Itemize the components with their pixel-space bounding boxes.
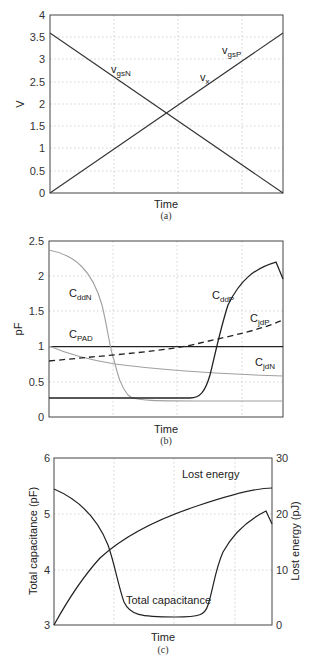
- svg-text:0: 0: [39, 187, 45, 199]
- vgsP-label: vgsP: [222, 44, 241, 59]
- panel-c-caption: (c): [157, 644, 168, 656]
- panel-b: 0 0.5 1 1.5 2 2.5 pF CddN CPAD CddP CjdP…: [12, 235, 283, 447]
- panel-a-grid: [50, 15, 283, 193]
- svg-text:0: 0: [276, 619, 282, 631]
- panel-a-yticks: 0 0.5 1 1.5 2 2.5 3 3.5 4: [30, 9, 45, 199]
- svg-text:1.5: 1.5: [30, 120, 45, 132]
- panel-c: 3 4 5 6 0 10 20 30 Total capacitance (pF…: [27, 452, 301, 656]
- svg-text:2: 2: [39, 98, 45, 110]
- svg-text:4: 4: [39, 9, 45, 21]
- svg-text:2.5: 2.5: [29, 235, 44, 247]
- svg-text:1: 1: [39, 142, 45, 154]
- svg-text:3: 3: [44, 619, 50, 631]
- panel-c-ylabel-right: Lost energy (pJ): [289, 501, 301, 580]
- panel-b-xlabel: Time: [154, 423, 178, 435]
- svg-text:4: 4: [44, 564, 50, 576]
- panel-a-ylabel: V: [14, 100, 26, 108]
- panel-b-axes-box: [49, 241, 283, 417]
- panel-c-yticks-right: 0 10 20 30: [276, 452, 288, 631]
- svg-text:0.5: 0.5: [29, 376, 44, 388]
- panel-c-ylabel-left: Total capacitance (pF): [27, 487, 39, 595]
- total-capacitance-label: Total capacitance: [126, 594, 211, 606]
- svg-text:2: 2: [38, 270, 44, 282]
- svg-text:1: 1: [38, 340, 44, 352]
- panel-a-xlabel: Time: [154, 198, 178, 210]
- panel-a: 0 0.5 1 1.5 2 2.5 3 3.5 4 V vgsN vx vgsP…: [14, 9, 283, 222]
- panel-c-xlabel: Time: [151, 631, 175, 643]
- svg-text:3.5: 3.5: [30, 31, 45, 43]
- svg-text:30: 30: [276, 452, 288, 464]
- vx-label: vx: [200, 71, 210, 86]
- svg-text:0.5: 0.5: [30, 165, 45, 177]
- CddN-label: CddN: [69, 287, 92, 302]
- figure: 0 0.5 1 1.5 2 2.5 3 3.5 4 V vgsN vx vgsP…: [0, 0, 310, 662]
- panel-a-caption: (a): [160, 210, 171, 222]
- CddN-line: [49, 250, 283, 401]
- svg-text:1.5: 1.5: [29, 305, 44, 317]
- svg-text:5: 5: [44, 508, 50, 520]
- CPAD-label: CPAD: [69, 328, 93, 343]
- lost-energy-label: Lost energy: [182, 468, 240, 480]
- svg-text:20: 20: [276, 508, 288, 520]
- CjdN-line: [49, 346, 283, 376]
- svg-text:10: 10: [276, 564, 288, 576]
- CddP-line: [49, 262, 283, 398]
- svg-text:0: 0: [38, 411, 44, 423]
- CjdN-label: CjdN: [255, 356, 275, 371]
- svg-text:6: 6: [44, 452, 50, 464]
- panel-b-caption: (b): [160, 435, 172, 447]
- svg-text:3: 3: [39, 53, 45, 65]
- panel-b-ylabel: pF: [12, 322, 24, 335]
- panel-c-yticks-left: 3 4 5 6: [44, 452, 50, 631]
- CddP-label: CddP: [212, 289, 234, 304]
- panel-b-yticks: 0 0.5 1 1.5 2 2.5: [29, 235, 44, 423]
- panel-b-grid: [49, 241, 283, 417]
- svg-text:2.5: 2.5: [30, 76, 45, 88]
- CjdP-label: CjdP: [250, 312, 270, 327]
